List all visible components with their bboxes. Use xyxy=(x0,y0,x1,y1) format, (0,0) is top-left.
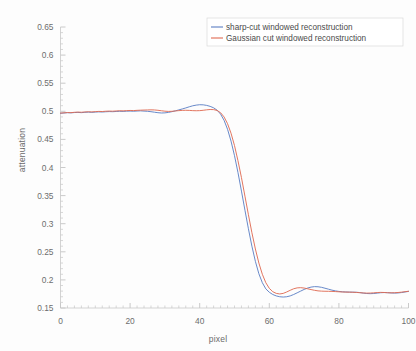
svg-text:0.15: 0.15 xyxy=(37,303,54,313)
svg-text:100: 100 xyxy=(402,316,416,326)
chart-figure: 0.150.20.250.30.350.40.450.50.550.60.65 … xyxy=(0,0,416,351)
data-series-group xyxy=(61,105,409,297)
line-chart-canvas: 0.150.20.250.30.350.40.450.50.550.60.65 … xyxy=(0,0,416,351)
y-axis-tick-marks xyxy=(61,27,66,308)
y-axis-tick-labels: 0.150.20.250.30.350.40.450.50.550.60.65 xyxy=(37,22,54,313)
svg-text:0.45: 0.45 xyxy=(37,134,54,144)
svg-text:0: 0 xyxy=(58,316,63,326)
svg-text:80: 80 xyxy=(334,316,344,326)
x-axis-tick-labels: 020406080100 xyxy=(58,316,416,326)
svg-text:0.6: 0.6 xyxy=(42,50,54,60)
svg-text:0.55: 0.55 xyxy=(37,78,54,88)
svg-text:60: 60 xyxy=(265,316,275,326)
svg-text:0.65: 0.65 xyxy=(37,22,54,32)
svg-text:0.2: 0.2 xyxy=(42,275,54,285)
svg-text:0.3: 0.3 xyxy=(42,219,54,229)
svg-text:40: 40 xyxy=(195,316,205,326)
svg-text:0.35: 0.35 xyxy=(37,191,54,201)
svg-text:20: 20 xyxy=(125,316,135,326)
svg-text:0.4: 0.4 xyxy=(42,163,54,173)
chart-legend: sharp-cut windowed reconstructionGaussia… xyxy=(207,18,403,46)
x-axis-tick-marks xyxy=(61,303,409,308)
y-axis-label: attenuation xyxy=(17,110,27,190)
svg-text:Gaussian cut windowed reconstr: Gaussian cut windowed reconstruction xyxy=(226,34,367,43)
svg-text:0.5: 0.5 xyxy=(42,106,54,116)
x-axis-label: pixel xyxy=(0,334,416,344)
svg-text:sharp-cut windowed reconstruct: sharp-cut windowed reconstruction xyxy=(226,23,353,32)
svg-text:0.25: 0.25 xyxy=(37,247,54,257)
axis-lines xyxy=(61,27,409,308)
